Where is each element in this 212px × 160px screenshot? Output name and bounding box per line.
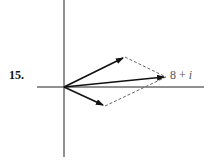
vector-sum-arrow [64, 77, 164, 87]
problem-number: 15. [9, 68, 24, 83]
dashed-side-upper [125, 57, 166, 77]
sum-label-imag: i [189, 68, 192, 82]
vector-addition-figure: 15. 8 + i [0, 0, 212, 160]
sum-label-real: 8 + [170, 68, 186, 82]
vector-b-arrow [64, 87, 103, 105]
sum-label: 8 + i [170, 68, 192, 83]
